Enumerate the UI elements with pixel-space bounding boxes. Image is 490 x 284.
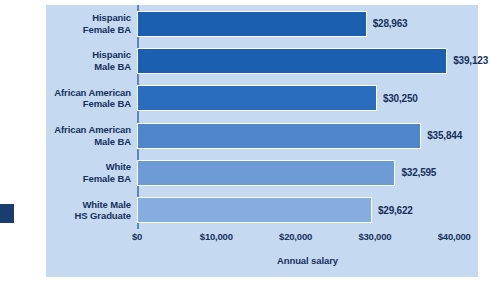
- bar-series: $28,963 $39,123 $30,250 $35,844 $32,595: [137, 5, 478, 229]
- bar-row: $35,844: [137, 117, 478, 154]
- bar-value-label: $32,595: [401, 167, 436, 178]
- bar-value-label: $28,963: [373, 18, 408, 29]
- bar: [137, 85, 377, 111]
- bar: [137, 48, 447, 74]
- x-tick-label: $10,000: [200, 231, 233, 242]
- bar-value-label: $29,622: [378, 205, 413, 216]
- category-axis-labels: Hispanic Female BA Hispanic Male BA Afri…: [46, 5, 137, 229]
- bar-row: $29,622: [137, 192, 478, 229]
- plot-area: $28,963 $39,123 $30,250 $35,844 $32,595: [137, 5, 478, 229]
- category-label: White Male HS Graduate: [46, 192, 137, 229]
- x-axis-ticks: $0$10,000$20,000$30,000$40,000: [137, 231, 478, 249]
- bar: [137, 123, 421, 149]
- bar-value-label: $35,844: [427, 130, 462, 141]
- category-label: African American Male BA: [46, 117, 137, 154]
- category-label: Hispanic Male BA: [46, 42, 137, 79]
- category-label: White Female BA: [46, 154, 137, 191]
- bar-row: $39,123: [137, 42, 478, 79]
- bar-value-label: $39,123: [453, 55, 488, 66]
- bar-row: $28,963: [137, 5, 478, 42]
- x-axis-title: Annual salary: [137, 255, 478, 266]
- bar: [137, 11, 367, 37]
- bar-row: $32,595: [137, 154, 478, 191]
- x-tick-label: $0: [132, 231, 142, 242]
- x-tick-label: $40,000: [438, 231, 471, 242]
- bar: [137, 197, 372, 223]
- category-label: African American Female BA: [46, 80, 137, 117]
- page-edge-marker: [0, 204, 14, 223]
- bar: [137, 160, 395, 186]
- x-tick-label: $30,000: [358, 231, 391, 242]
- bar-value-label: $30,250: [383, 93, 418, 104]
- bar-row: $30,250: [137, 80, 478, 117]
- chart-figure: Hispanic Female BA Hispanic Male BA Afri…: [0, 0, 490, 284]
- x-tick-label: $20,000: [279, 231, 312, 242]
- chart-panel: Hispanic Female BA Hispanic Male BA Afri…: [46, 5, 478, 277]
- category-label: Hispanic Female BA: [46, 5, 137, 42]
